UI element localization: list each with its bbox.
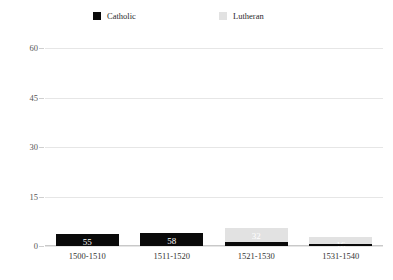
legend-label-lutheran: Lutheran <box>233 11 264 21</box>
bar-series-container: 5558329164 <box>45 48 383 246</box>
plot-area: 015304560 5558329164 <box>45 48 383 246</box>
bar-segment-catholic-1531-1540[interactable]: 4 <box>309 244 372 246</box>
bar-stack: 329 <box>225 220 288 246</box>
y-axis-tick-mark-0 <box>39 246 44 247</box>
bar-segment-catholic-1500-1510[interactable]: 55 <box>56 234 119 246</box>
y-axis-tick-label-45: 45 <box>30 93 39 103</box>
x-axis-label-1500-1510: 1500-1510 <box>45 251 130 267</box>
y-axis-tick-mark-30 <box>39 147 44 148</box>
y-axis-tick-label-60: 60 <box>30 43 39 53</box>
bar-stack: 58 <box>140 233 203 246</box>
y-axis-tick-label-30: 30 <box>30 142 39 152</box>
bar-segment-catholic-1511-1520[interactable]: 58 <box>140 233 203 246</box>
stacked-bar-chart: Catholic Lutheran 015304560 5558329164 1… <box>0 0 393 280</box>
bar-segment-lutheran-1531-1540[interactable]: 16 <box>309 237 372 244</box>
x-axis-labels: 1500-15101511-15201521-15301531-1540 <box>45 251 383 267</box>
x-axis-label-1511-1520: 1511-1520 <box>130 251 215 267</box>
y-axis-tick-mark-60 <box>39 48 44 49</box>
bar-segment-catholic-1521-1530[interactable]: 9 <box>225 242 288 246</box>
y-axis-tick-label-0: 0 <box>34 241 38 251</box>
bar-stack: 164 <box>309 220 372 246</box>
bar-value-label: 55 <box>83 234 92 247</box>
legend-label-catholic: Catholic <box>107 11 136 21</box>
chart-legend: Catholic Lutheran <box>0 11 393 27</box>
y-axis-tick-mark-15 <box>39 197 44 198</box>
x-axis-label-1531-1540: 1531-1540 <box>299 251 384 267</box>
y-axis-tick-label-15: 15 <box>30 192 39 202</box>
gridline-0 <box>45 246 383 247</box>
bar-group-1511-1520: 58 <box>130 48 215 246</box>
y-axis-tick-mark-45 <box>39 98 44 99</box>
x-axis-label-1521-1530: 1521-1530 <box>214 251 299 267</box>
bar-value-label: 32 <box>252 228 261 241</box>
legend-item-lutheran[interactable]: Lutheran <box>219 11 264 21</box>
bar-group-1531-1540: 164 <box>299 48 384 246</box>
legend-swatch-lutheran-square-icon <box>219 12 227 20</box>
legend-item-catholic[interactable]: Catholic <box>93 11 136 21</box>
bar-group-1500-1510: 55 <box>45 48 130 246</box>
bar-group-1521-1530: 329 <box>214 48 299 246</box>
legend-swatch-catholic-square-icon <box>93 12 101 20</box>
bar-segment-lutheran-1521-1530[interactable]: 32 <box>225 228 288 242</box>
bar-value-label: 58 <box>167 233 176 246</box>
bar-stack: 55 <box>56 233 119 246</box>
